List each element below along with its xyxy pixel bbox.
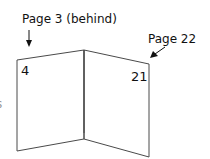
page-number-left: 4 [21, 63, 29, 78]
booklet-diagram: Page 3 (behind) Page 22 4 21 s [0, 0, 210, 159]
label-page-behind: Page 3 (behind) [22, 12, 117, 26]
arrow-down-icon [26, 30, 32, 47]
page-number-right: 21 [131, 69, 148, 84]
right-page [84, 50, 149, 157]
cropped-text-fragment: s [0, 97, 2, 111]
arrow-diagonal-icon [150, 47, 165, 58]
label-right-page: Page 22 [148, 32, 196, 46]
